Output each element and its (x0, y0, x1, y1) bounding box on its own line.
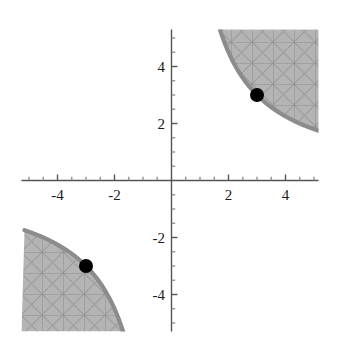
point-upper-right (250, 88, 264, 102)
y-tick-label-2: 2 (158, 116, 166, 131)
plot-svg (0, 0, 339, 352)
point-lower-left (79, 259, 93, 273)
region-upper-right-fill (220, 30, 319, 131)
x-tick-label-4: 4 (282, 188, 290, 203)
y-tick-label-4: 4 (158, 59, 166, 74)
y-tick-label-minus4: -4 (153, 287, 166, 302)
region-lower-left-fill (22, 230, 124, 331)
plot-canvas: -4 -2 2 4 -4 -2 2 4 (0, 0, 339, 352)
y-tick-label-minus2: -2 (153, 230, 166, 245)
x-tick-label-minus2: -2 (108, 188, 121, 203)
x-tick-label-2: 2 (225, 188, 233, 203)
x-tick-label-minus4: -4 (51, 188, 64, 203)
